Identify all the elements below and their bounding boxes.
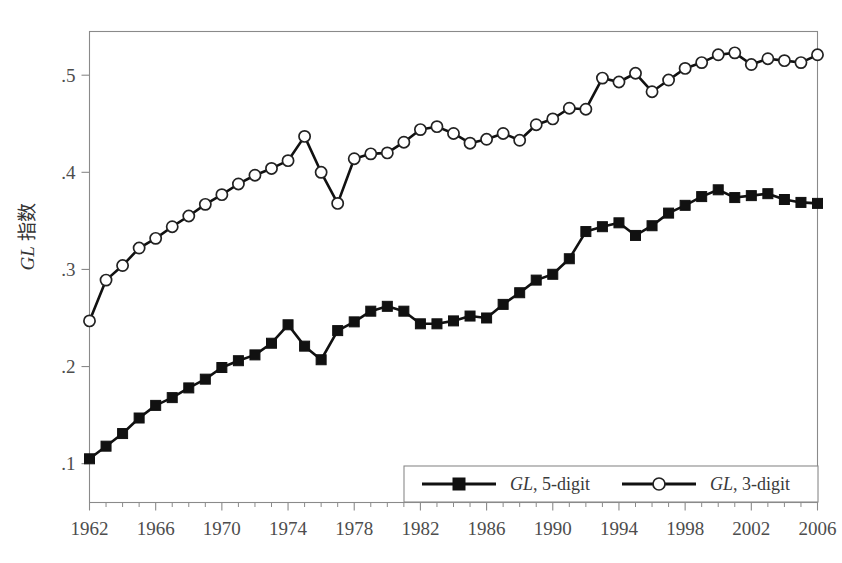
data-point-marker: [515, 288, 525, 298]
x-tick-label: 1970: [203, 518, 241, 539]
data-point-marker: [118, 429, 128, 439]
data-point-marker: [415, 124, 426, 135]
data-point-marker: [266, 163, 277, 174]
x-tick-label: 2006: [799, 518, 837, 539]
data-point-marker: [762, 53, 773, 64]
data-point-marker: [729, 47, 740, 58]
data-point-marker: [531, 275, 541, 285]
data-point-marker: [134, 413, 144, 423]
data-point-marker: [100, 275, 111, 286]
data-point-marker: [216, 189, 227, 200]
data-point-marker: [581, 227, 591, 237]
data-point-marker: [300, 341, 310, 351]
data-point-marker: [431, 121, 442, 132]
data-point-marker: [233, 178, 244, 189]
y-axis-tick-labels: .1.2.3.4.5: [61, 65, 76, 474]
x-tick-label: 2002: [732, 518, 770, 539]
data-point-marker: [548, 269, 558, 279]
data-point-marker: [299, 131, 310, 142]
data-point-marker: [631, 230, 641, 240]
data-point-marker: [680, 63, 691, 74]
data-point-marker: [382, 147, 393, 158]
chart-legend: GL, 5-digitGL, 3-digit: [404, 466, 818, 502]
data-point-marker: [614, 218, 624, 228]
data-point-marker: [465, 311, 475, 321]
data-point-marker: [746, 59, 757, 70]
y-axis-title-text: GL 指数: [17, 203, 38, 270]
data-point-marker: [217, 363, 227, 373]
legend-marker-circle-icon: [653, 478, 665, 490]
data-point-marker: [167, 221, 178, 232]
data-point-marker: [349, 317, 359, 327]
x-tick-label: 1998: [666, 518, 704, 539]
data-point-marker: [464, 138, 475, 149]
data-point-marker: [399, 306, 409, 316]
data-point-marker: [85, 454, 95, 464]
series-5-digit: [85, 185, 823, 464]
data-point-marker: [283, 320, 293, 330]
x-tick-label: 1978: [335, 518, 373, 539]
data-point-marker: [249, 170, 260, 181]
legend-marker-square-icon: [453, 478, 465, 490]
x-tick-label: 1962: [71, 518, 109, 539]
data-point-marker: [415, 319, 425, 329]
data-point-marker: [564, 254, 574, 264]
data-point-marker: [449, 316, 459, 326]
data-point-marker: [498, 299, 508, 309]
data-point-marker: [183, 210, 194, 221]
data-point-marker: [167, 393, 177, 403]
data-point-marker: [763, 189, 773, 199]
data-point-marker: [150, 233, 161, 244]
data-point-marker: [697, 192, 707, 202]
data-point-marker: [531, 119, 542, 130]
x-tick-label: 1990: [534, 518, 572, 539]
data-point-marker: [498, 128, 509, 139]
data-point-marker: [365, 148, 376, 159]
data-point-marker: [514, 135, 525, 146]
axis-ticks-layer: [82, 75, 818, 510]
data-point-marker: [680, 200, 690, 210]
data-point-marker: [597, 222, 607, 232]
y-axis-title: GL 指数: [17, 203, 38, 270]
data-point-marker: [184, 383, 194, 393]
data-point-marker: [250, 350, 260, 360]
x-tick-label: 1974: [269, 518, 308, 539]
data-point-marker: [316, 167, 327, 178]
data-point-marker: [613, 76, 624, 87]
data-point-marker: [779, 55, 790, 66]
data-point-marker: [647, 221, 657, 231]
data-point-marker: [432, 319, 442, 329]
y-tick-label: .4: [61, 162, 76, 183]
data-point-marker: [813, 198, 823, 208]
data-point-marker: [282, 155, 293, 166]
data-point-marker: [134, 242, 145, 253]
data-point-marker: [630, 68, 641, 79]
data-point-marker: [382, 301, 392, 311]
data-point-marker: [713, 185, 723, 195]
data-point-marker: [564, 103, 575, 114]
data-point-marker: [233, 356, 243, 366]
data-point-marker: [664, 208, 674, 218]
plot-frame: [90, 32, 818, 503]
data-point-marker: [696, 57, 707, 68]
data-point-marker: [316, 355, 326, 365]
data-point-marker: [200, 199, 211, 210]
data-point-marker: [482, 313, 492, 323]
x-tick-label: 1986: [468, 518, 506, 539]
data-point-marker: [663, 74, 674, 85]
data-point-marker: [796, 197, 806, 207]
data-point-marker: [366, 306, 376, 316]
data-point-marker: [481, 134, 492, 145]
legend-label: GL, 3-digit: [710, 474, 790, 494]
data-point-marker: [646, 86, 657, 97]
y-tick-label: .5: [61, 65, 75, 86]
data-point-marker: [332, 198, 343, 209]
series-3-digit: [84, 47, 823, 326]
data-point-marker: [746, 191, 756, 201]
legend-label: GL, 5-digit: [510, 474, 590, 494]
data-point-marker: [398, 137, 409, 148]
data-point-marker: [597, 73, 608, 84]
y-tick-label: .3: [61, 259, 75, 280]
data-point-marker: [795, 57, 806, 68]
data-point-marker: [333, 326, 343, 336]
